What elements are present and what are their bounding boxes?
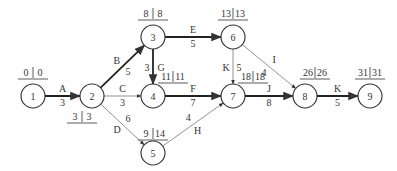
latest-time: 14 [155, 128, 165, 139]
node-number: 2 [90, 91, 95, 102]
activity-arrow-c-2-4: C3 [104, 83, 141, 108]
event-node-2: 2 [80, 84, 104, 108]
duration-label: 7 [191, 97, 196, 108]
network-diagram: A3B5C3D6E5G3F7H4K5I4J8K5 123456789 00338… [0, 0, 397, 171]
activity-arrow-b-2-3: B5 [101, 45, 145, 87]
event-times-6: 1313 [218, 8, 248, 20]
latest-time: 0 [38, 67, 43, 78]
earliest-time: 26 [303, 67, 313, 78]
activity-label: B [114, 55, 121, 66]
latest-time: 26 [317, 67, 327, 78]
node-number: 4 [151, 91, 156, 102]
duration-label: 5 [335, 97, 340, 108]
event-times-layer: 00338811119141313181826263131 [18, 8, 385, 140]
activity-label: K [222, 62, 230, 73]
duration-label: 5 [191, 38, 196, 49]
earliest-time: 11 [161, 71, 171, 82]
event-node-5: 5 [141, 141, 165, 165]
event-times-4: 1111 [158, 71, 188, 83]
latest-time: 8 [158, 8, 163, 19]
activity-label: H [194, 125, 201, 136]
event-times-5: 914 [138, 128, 168, 140]
earliest-time: 31 [358, 67, 368, 78]
event-node-3: 3 [141, 25, 165, 49]
activity-label: C [119, 83, 126, 94]
node-number: 3 [151, 32, 156, 43]
node-number: 1 [31, 91, 36, 102]
activity-arrow-a-1-2: A3 [45, 83, 80, 108]
arrow-line [101, 45, 145, 87]
event-node-4: 4 [141, 84, 165, 108]
event-node-9: 9 [358, 84, 382, 108]
activity-arrow-k-8-9: K5 [317, 83, 358, 108]
event-times-7: 1818 [238, 71, 268, 83]
event-node-6: 6 [221, 25, 245, 49]
activity-arrow-f-4-7: F7 [165, 83, 221, 108]
activity-label: I [272, 54, 275, 65]
node-number: 7 [231, 91, 236, 102]
earliest-time: 3 [73, 111, 78, 122]
latest-time: 3 [87, 111, 92, 122]
earliest-time: 9 [144, 128, 149, 139]
duration-label: 8 [267, 97, 272, 108]
node-number: 9 [368, 91, 373, 102]
activity-label: E [190, 24, 196, 35]
duration-label: 4 [186, 112, 191, 123]
activity-label: A [59, 83, 67, 94]
event-times-9: 3131 [355, 67, 385, 79]
activity-label: J [267, 83, 271, 94]
event-node-8: 8 [293, 84, 317, 108]
earliest-time: 18 [241, 71, 251, 82]
activity-arrow-e-3-6: E5 [165, 24, 221, 49]
earliest-time: 0 [24, 67, 29, 78]
activity-arrow-j-7-8: J8 [245, 83, 293, 108]
earliest-time: 8 [144, 8, 149, 19]
event-times-3: 88 [138, 8, 168, 20]
activity-label: D [113, 124, 120, 135]
latest-time: 18 [255, 71, 265, 82]
duration-label: 3 [145, 62, 150, 73]
activity-arrow-k-6-7: K5 [222, 49, 241, 84]
node-number: 6 [231, 32, 236, 43]
activity-arrow-h-5-7: H4 [163, 103, 223, 146]
duration-label: 6 [125, 113, 130, 124]
duration-label: 3 [120, 97, 125, 108]
event-times-1: 00 [18, 67, 48, 79]
activity-arrow-d-2-5: D6 [101, 104, 144, 145]
latest-time: 31 [372, 67, 382, 78]
event-node-1: 1 [21, 84, 45, 108]
node-number: 8 [303, 91, 308, 102]
event-times-8: 2626 [300, 67, 330, 79]
arrow-line [101, 104, 144, 145]
activity-label: K [334, 83, 342, 94]
event-node-7: 7 [221, 84, 245, 108]
latest-time: 11 [175, 71, 185, 82]
nodes-layer: 123456789 [21, 25, 382, 165]
duration-label: 5 [126, 66, 131, 77]
arrow-line [163, 103, 223, 146]
duration-label: 3 [60, 97, 65, 108]
node-number: 5 [151, 148, 156, 159]
earliest-time: 13 [221, 8, 231, 19]
activity-label: F [190, 83, 196, 94]
latest-time: 13 [235, 8, 245, 19]
event-times-2: 33 [67, 111, 97, 123]
